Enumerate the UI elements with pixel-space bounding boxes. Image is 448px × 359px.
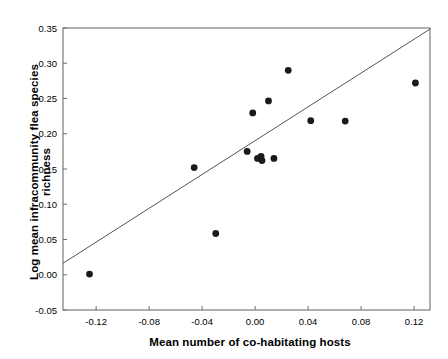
- y-tick-label: -0.05: [35, 305, 57, 316]
- plot-frame: [63, 28, 430, 310]
- x-tick-label: 0.04: [299, 316, 318, 327]
- data-point: [412, 80, 419, 87]
- x-tick-label: 0.08: [352, 316, 371, 327]
- data-point: [86, 271, 93, 278]
- y-tick-label: 0.35: [39, 23, 58, 34]
- x-tick-label: 0.12: [405, 316, 424, 327]
- data-point: [191, 164, 198, 171]
- plot-canvas: -0.12-0.08-0.040.000.040.080.12-0.050.00…: [0, 0, 448, 359]
- data-point: [212, 230, 219, 237]
- data-point: [271, 155, 278, 162]
- data-point: [285, 67, 292, 74]
- x-tick-label: -0.04: [191, 316, 213, 327]
- data-point: [307, 117, 314, 124]
- data-point: [259, 157, 266, 164]
- regression-line: [63, 29, 430, 263]
- data-point: [249, 110, 256, 117]
- y-axis-title: Log mean infracommunity flea species ric…: [28, 47, 52, 297]
- data-point: [265, 98, 272, 105]
- data-point: [244, 148, 251, 155]
- data-point: [342, 118, 349, 125]
- scatter-plot-figure: -0.12-0.08-0.040.000.040.080.12-0.050.00…: [0, 0, 448, 359]
- x-axis-title: Mean number of co-habitating hosts: [70, 336, 430, 348]
- x-tick-label: -0.08: [138, 316, 160, 327]
- x-tick-label: -0.12: [85, 316, 107, 327]
- x-tick-label: 0.00: [246, 316, 265, 327]
